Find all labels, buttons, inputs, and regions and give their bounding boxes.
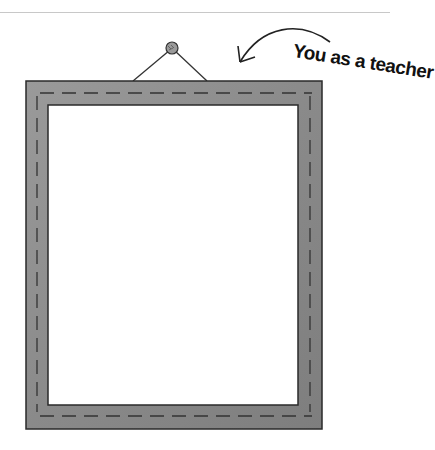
nail-icon xyxy=(166,42,178,54)
hanging-wire xyxy=(133,50,207,81)
picture-frame xyxy=(26,81,322,429)
frame-canvas xyxy=(48,105,298,405)
